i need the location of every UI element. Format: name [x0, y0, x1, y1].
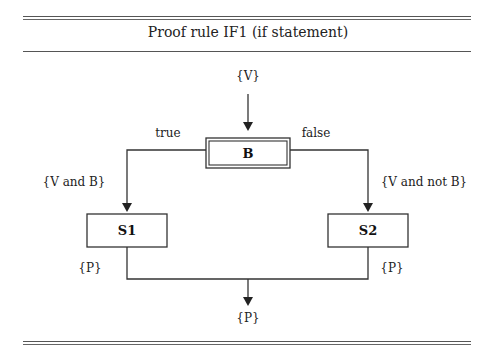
true-branch-line: [127, 150, 206, 204]
postcondition-label: {P}: [236, 311, 259, 325]
true-branch-label: true: [155, 126, 180, 140]
condition-label: B: [243, 146, 254, 161]
exit-arrowhead-icon: [243, 297, 253, 306]
statement-s1-label: S1: [118, 223, 136, 238]
precondition-label: {V}: [236, 69, 260, 83]
false-branch-line: [290, 150, 368, 204]
true-assertion-label: {V and B}: [43, 175, 106, 189]
false-branch-label: false: [302, 126, 331, 140]
statement-s1-box: S1: [87, 214, 167, 247]
true-branch-arrowhead-icon: [122, 203, 132, 212]
post-true-label: {P}: [78, 261, 101, 275]
condition-box: B: [206, 138, 290, 168]
false-branch-arrowhead-icon: [363, 203, 373, 212]
false-assertion-label: {V and not B}: [381, 175, 468, 189]
if-rule-flowchart: {V} B true false {V and B} {V and not B}…: [0, 0, 496, 354]
post-false-label: {P}: [380, 261, 403, 275]
bottom-double-rule: [23, 341, 471, 345]
statement-s2-box: S2: [328, 214, 408, 247]
merge-line: [127, 247, 368, 279]
statement-s2-label: S2: [359, 223, 377, 238]
entry-arrowhead-icon: [243, 122, 253, 131]
